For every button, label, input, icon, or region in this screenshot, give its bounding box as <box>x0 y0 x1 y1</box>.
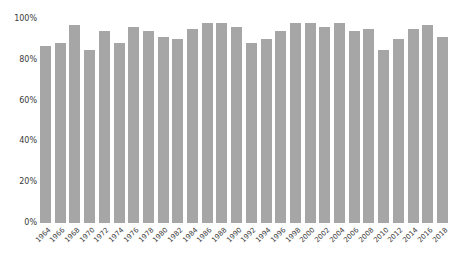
x-tick-label: 1972 <box>93 226 111 244</box>
x-tick-label: 2012 <box>387 226 405 244</box>
bar-2006 <box>349 31 360 223</box>
y-tick-label: 80% <box>0 55 37 65</box>
y-tick-label: 0% <box>0 218 37 228</box>
bar-2014 <box>408 29 419 223</box>
bar-1988 <box>216 23 227 223</box>
x-tick-label: 2014 <box>401 226 419 244</box>
x-tick-label: 1974 <box>107 226 125 244</box>
bar-chart: 0%20%40%60%80%100% 196419661968197019721… <box>0 0 461 255</box>
bar-1990 <box>231 27 242 223</box>
bar-1984 <box>187 29 198 223</box>
bar-1972 <box>99 31 110 223</box>
x-tick-label: 1980 <box>151 226 169 244</box>
bar-1986 <box>202 23 213 223</box>
x-tick-label: 1998 <box>284 226 302 244</box>
bar-1974 <box>114 43 125 223</box>
y-tick-label: 20% <box>0 177 37 187</box>
bar-2002 <box>319 27 330 223</box>
x-tick-label: 1984 <box>181 226 199 244</box>
x-tick-label: 1976 <box>122 226 140 244</box>
x-tick-label: 2008 <box>357 226 375 244</box>
x-tick-label: 1970 <box>78 226 96 244</box>
bar-1998 <box>290 23 301 223</box>
y-tick-label: 60% <box>0 96 37 106</box>
x-tick-label: 1988 <box>210 226 228 244</box>
x-tick-label: 1966 <box>49 226 67 244</box>
x-tick-label: 2018 <box>431 226 449 244</box>
y-tick-label: 100% <box>0 14 37 24</box>
bar-2018 <box>437 37 448 223</box>
bar-1970 <box>84 50 95 223</box>
x-tick-label: 1986 <box>196 226 214 244</box>
x-tick-label: 1978 <box>137 226 155 244</box>
x-tick-label: 2016 <box>416 226 434 244</box>
bar-1994 <box>261 39 272 223</box>
bar-2008 <box>363 29 374 223</box>
plot-area: 0%20%40%60%80%100% 196419661968197019721… <box>0 0 461 255</box>
bar-1980 <box>158 37 169 223</box>
bar-1982 <box>172 39 183 223</box>
bar-1978 <box>143 31 154 223</box>
x-tick-label: 1996 <box>269 226 287 244</box>
x-tick-label: 1992 <box>240 226 258 244</box>
bar-1966 <box>55 43 66 223</box>
bar-2012 <box>393 39 404 223</box>
bar-1964 <box>40 46 51 223</box>
x-tick-label: 1964 <box>34 226 52 244</box>
x-tick-label: 2002 <box>313 226 331 244</box>
x-tick-label: 2006 <box>343 226 361 244</box>
x-tick-label: 2010 <box>372 226 390 244</box>
x-tick-label: 2000 <box>298 226 316 244</box>
bar-1976 <box>128 27 139 223</box>
bar-1996 <box>275 31 286 223</box>
bar-2004 <box>334 23 345 223</box>
bar-2010 <box>378 50 389 223</box>
x-tick-label: 1982 <box>166 226 184 244</box>
bar-2016 <box>422 25 433 223</box>
x-tick-label: 1968 <box>63 226 81 244</box>
bar-2000 <box>305 23 316 223</box>
x-tick-label: 1994 <box>254 226 272 244</box>
x-tick-label: 2004 <box>328 226 346 244</box>
bar-1992 <box>246 43 257 223</box>
y-tick-label: 40% <box>0 136 37 146</box>
bar-1968 <box>69 25 80 223</box>
x-tick-label: 1990 <box>225 226 243 244</box>
